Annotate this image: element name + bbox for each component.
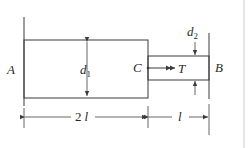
double-arrow-torque-icon — [166, 66, 175, 71]
label-d2: d2 — [187, 24, 198, 41]
label-T: T — [178, 61, 186, 76]
label-l: l — [178, 109, 182, 124]
label-B: B — [215, 60, 223, 75]
label-2l: 2l — [75, 109, 89, 124]
label-C: C — [133, 60, 142, 75]
label-A: A — [6, 62, 15, 77]
stepped-shaft-diagram: A B C T d1 d2 2l l — [0, 0, 252, 148]
label-d1: d1 — [80, 62, 91, 79]
